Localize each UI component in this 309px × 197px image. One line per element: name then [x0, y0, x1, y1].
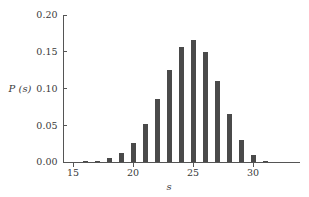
y-axis-title: P (s): [8, 83, 32, 94]
bar-s-28: [227, 114, 232, 162]
chart-figure: 15202530 0.000.050.100.150.20 s P (s): [0, 0, 309, 197]
y-tick-label-0.20: 0.20: [36, 9, 57, 20]
bar-s-26: [203, 52, 208, 162]
y-tick-label-0.00: 0.00: [36, 156, 57, 167]
x-tick-label-30: 30: [247, 167, 259, 178]
bar-s-18: [107, 158, 112, 162]
bar-s-16: [83, 161, 88, 162]
bar-s-19: [119, 153, 124, 162]
bar-s-23: [167, 70, 172, 162]
y-tick-label-0.10: 0.10: [36, 83, 57, 94]
x-tick-label-20: 20: [127, 167, 139, 178]
bar-s-25: [191, 40, 196, 162]
bar-s-20: [131, 143, 136, 162]
x-tick-label-25: 25: [187, 167, 199, 178]
bar-s-29: [239, 140, 244, 162]
bar-s-31: [263, 161, 268, 162]
bar-s-21: [143, 124, 148, 162]
x-tick-label-15: 15: [67, 167, 79, 178]
bar-s-30: [251, 155, 256, 162]
x-axis-title: s: [166, 181, 171, 192]
bar-s-27: [215, 81, 220, 162]
distribution-bar-chart: 15202530 0.000.050.100.150.20 s P (s): [0, 0, 309, 197]
bar-s-17: [95, 161, 100, 162]
bar-s-22: [155, 99, 160, 162]
y-tick-label-0.05: 0.05: [36, 120, 57, 131]
bar-s-24: [179, 47, 184, 162]
y-tick-label-0.15: 0.15: [36, 46, 57, 57]
chart-background: [0, 0, 309, 197]
